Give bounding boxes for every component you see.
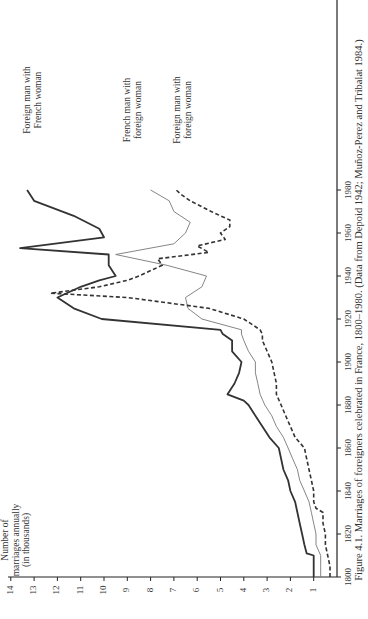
y-tick-label: 4: [238, 587, 248, 592]
x-tick-label: 1960: [343, 224, 353, 243]
y-axis-title-line: Number of: [0, 518, 10, 560]
series-label: Foreign man with: [172, 76, 182, 144]
series-label: Foreign man with: [22, 66, 32, 134]
series-line-0: [20, 190, 314, 577]
y-tick-label: 5: [215, 587, 225, 592]
x-tick-label: 1920: [343, 310, 353, 329]
series-label: foreign woman: [183, 81, 193, 139]
y-tick-label: 2: [284, 588, 294, 593]
x-tick-label: 1840: [343, 482, 353, 501]
series-lines: [20, 190, 330, 577]
y-axis-title-line: marriages annually: [11, 503, 21, 576]
series-label: French woman: [33, 71, 43, 128]
caption-text: Figure 4.1. Marriages of foreigners cele…: [353, 39, 365, 581]
series-label: foreign woman: [133, 81, 143, 139]
y-tick-label: 13: [28, 585, 38, 595]
x-tick-label: 1800: [343, 568, 353, 587]
series-line-1: [116, 190, 321, 577]
y-tick-label: 14: [5, 585, 15, 595]
y-tick-label: 12: [51, 586, 61, 595]
series-label: French man with: [122, 78, 132, 143]
chart-canvas: 1800182018401860188019001920194019601980…: [0, 0, 368, 619]
x-tick-label: 1900: [343, 353, 353, 372]
x-tick-label: 1980: [343, 181, 353, 200]
y-tick-label: 7: [168, 587, 178, 592]
y-tick-label: 9: [121, 587, 131, 592]
y-tick-label: 6: [191, 587, 201, 592]
y-tick-label: 1: [308, 588, 318, 593]
series-line-2: [50, 190, 330, 577]
x-tick-label: 1860: [343, 439, 353, 458]
figure-caption: Figure 4.1. Marriages of foreigners cele…: [353, 39, 365, 581]
y-axis-title-line: (in thousands): [21, 513, 32, 567]
y-tick-label: 11: [75, 586, 85, 595]
y-tick-label: 10: [98, 585, 108, 595]
y-tick-label: 8: [145, 587, 155, 592]
x-tick-label: 1880: [343, 396, 353, 415]
y-tick-label: 3: [261, 587, 271, 592]
x-tick-label: 1820: [343, 525, 353, 544]
figure-4-1: 1800182018401860188019001920194019601980…: [0, 0, 368, 619]
x-tick-label: 1940: [343, 267, 353, 286]
series-labels: Foreign man withFrench womanFrench man w…: [22, 66, 193, 144]
y-axis-title: Number ofmarriages annually(in thousands…: [0, 503, 32, 576]
